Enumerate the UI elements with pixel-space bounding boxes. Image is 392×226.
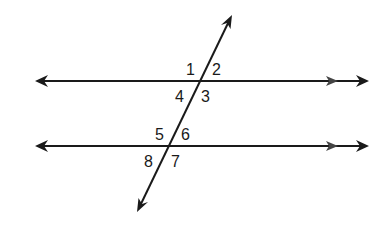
transversal-line (137, 15, 232, 212)
angle-label-6: 6 (181, 126, 190, 143)
lower-parallel-line (35, 140, 369, 152)
angle-label-3: 3 (201, 88, 210, 105)
angle-label-4: 4 (175, 88, 184, 105)
angle-label-2: 2 (212, 61, 221, 78)
angle-label-1: 1 (186, 61, 195, 78)
angle-label-7: 7 (171, 153, 180, 170)
parallel-lines-diagram: 1 2 3 4 5 6 7 8 (0, 0, 392, 226)
angle-label-8: 8 (144, 153, 153, 170)
angle-label-5: 5 (155, 126, 164, 143)
